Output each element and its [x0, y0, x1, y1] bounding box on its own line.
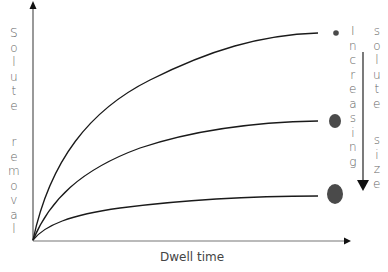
medium-solute-marker-icon — [329, 114, 341, 128]
y-axis-arrow-icon — [30, 1, 37, 9]
curve-large-solute — [33, 196, 318, 240]
annotation-increasing: Increasing — [349, 24, 357, 169]
y-axis-label: Solute removal — [8, 26, 20, 237]
annotation-solute-size: solute size — [373, 24, 381, 191]
small-solute-marker-icon — [333, 30, 339, 36]
large-solute-marker-icon — [327, 184, 343, 204]
diagram-canvas — [0, 0, 388, 272]
curve-small-solute — [33, 33, 318, 240]
x-axis-arrow-icon — [344, 238, 351, 245]
curve-medium-solute — [33, 121, 318, 240]
x-axis-label: Dwell time — [160, 250, 224, 264]
down-arrow-icon — [357, 180, 369, 191]
